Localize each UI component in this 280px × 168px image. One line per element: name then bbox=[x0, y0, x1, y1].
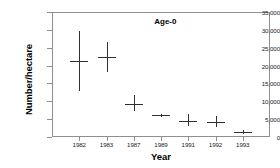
y-tick-label: 0 bbox=[235, 134, 280, 141]
x-tick-mark bbox=[216, 137, 217, 141]
x-tick-label: 1982 bbox=[73, 141, 86, 148]
data-point-mean-marker bbox=[152, 115, 170, 116]
x-tick-label: 1989 bbox=[154, 141, 167, 148]
x-tick-mark bbox=[107, 137, 108, 141]
x-tick-label: 1991 bbox=[182, 141, 195, 148]
data-point-mean-marker bbox=[234, 132, 252, 133]
x-tick-mark bbox=[79, 137, 80, 141]
x-axis-title: Year bbox=[52, 151, 270, 162]
plot-title: Age-0 bbox=[154, 17, 176, 26]
y-tick-mark bbox=[47, 66, 52, 67]
x-tick-mark bbox=[243, 137, 244, 141]
data-point-mean-marker bbox=[70, 61, 88, 62]
y-tick-mark bbox=[47, 48, 52, 49]
x-tick-mark bbox=[188, 137, 189, 141]
y-tick-mark bbox=[47, 101, 52, 102]
x-tick-label: 1993 bbox=[236, 141, 249, 148]
y-axis-title: Number/hectare bbox=[23, 25, 34, 135]
y-tick-label: 5,000 bbox=[235, 116, 280, 123]
y-tick-mark bbox=[47, 119, 52, 120]
y-tick-mark bbox=[47, 137, 52, 138]
y-tick-label: 15,000 bbox=[235, 80, 280, 87]
y-tick-mark bbox=[47, 30, 52, 31]
y-tick-mark bbox=[47, 83, 52, 84]
data-point-mean-marker bbox=[207, 122, 225, 123]
x-tick-label: 1983 bbox=[100, 141, 113, 148]
y-tick-label: 10,000 bbox=[235, 98, 280, 105]
chart-figure: 35,00030,00025,00020,00015,00010,0005,00… bbox=[0, 0, 280, 168]
y-tick-label: 20,000 bbox=[235, 62, 280, 69]
y-tick-label: 30,000 bbox=[235, 26, 280, 33]
x-tick-mark bbox=[134, 137, 135, 141]
x-tick-label: 1992 bbox=[209, 141, 222, 148]
data-point-mean-marker bbox=[125, 104, 143, 105]
x-tick-label: 1987 bbox=[127, 141, 140, 148]
y-tick-label: 25,000 bbox=[235, 44, 280, 51]
y-tick-mark bbox=[47, 12, 52, 13]
x-tick-mark bbox=[161, 137, 162, 141]
y-tick-label: 35,000 bbox=[235, 9, 280, 16]
error-bar-vertical bbox=[134, 95, 135, 110]
data-point-mean-marker bbox=[98, 57, 116, 58]
data-point-mean-marker bbox=[179, 121, 197, 122]
